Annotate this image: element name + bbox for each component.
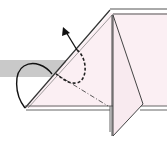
origami-diagram	[0, 0, 167, 144]
fold-arrow-icon	[62, 27, 70, 36]
fold-arrow-shaft	[66, 32, 77, 50]
